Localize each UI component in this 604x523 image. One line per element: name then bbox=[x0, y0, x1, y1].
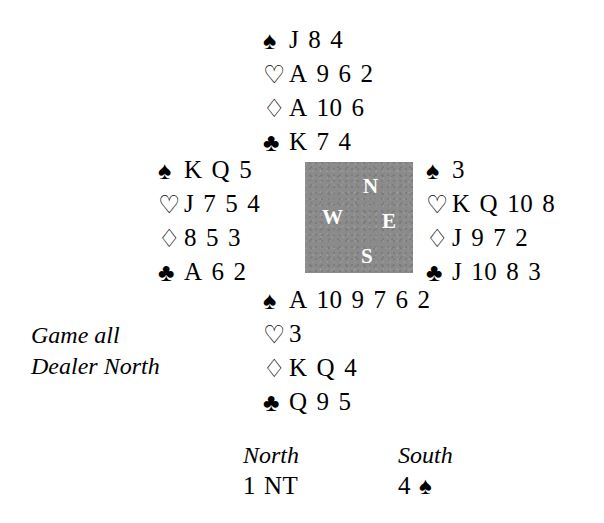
hand-east-diamonds-cards: J972 bbox=[452, 225, 528, 250]
card-rank: 9 bbox=[317, 388, 330, 415]
bridge-hand-diagram: ♠ J84 ♡ A962 ♢ A106 ♣ K74 ♠ KQ5 ♡ J754 ♢… bbox=[0, 0, 604, 523]
hand-west-hearts-row: ♡ J754 bbox=[158, 191, 260, 225]
card-rank: J bbox=[289, 26, 299, 53]
hand-west-diamonds-cards: 853 bbox=[184, 225, 241, 250]
hand-west: ♠ KQ5 ♡ J754 ♢ 853 ♣ A62 bbox=[158, 157, 260, 293]
hand-south-spades-cards: A109762 bbox=[289, 287, 431, 312]
card-rank: 7 bbox=[317, 128, 330, 155]
card-rank: 4 bbox=[247, 190, 260, 217]
hand-north-clubs-row: ♣ K74 bbox=[263, 129, 374, 163]
card-rank: 2 bbox=[361, 60, 374, 87]
card-rank: A bbox=[289, 60, 308, 87]
spade-icon: ♠ bbox=[263, 288, 289, 313]
hand-north-diamonds-cards: A106 bbox=[289, 95, 365, 120]
card-rank: Q bbox=[317, 354, 336, 381]
card-rank: J bbox=[452, 224, 462, 251]
hand-south: ♠ A109762 ♡ 3 ♢ KQ4 ♣ Q95 bbox=[263, 287, 431, 423]
diamond-icon: ♢ bbox=[263, 96, 289, 121]
dealer-label: Dealer North bbox=[31, 351, 160, 382]
card-rank: 4 bbox=[344, 354, 357, 381]
card-rank: A bbox=[289, 94, 308, 121]
auction-bid-south: 4♠ bbox=[398, 470, 453, 502]
hand-north-hearts-row: ♡ A962 bbox=[263, 61, 374, 95]
card-rank: 2 bbox=[234, 258, 247, 285]
club-icon: ♣ bbox=[263, 130, 289, 155]
hand-north-spades-row: ♠ J84 bbox=[263, 27, 374, 61]
card-rank: 2 bbox=[418, 286, 431, 313]
compass-box: N W E S bbox=[305, 162, 413, 273]
auction-column-south: South 4♠ bbox=[398, 440, 453, 502]
card-rank: A bbox=[184, 258, 203, 285]
card-rank: 4 bbox=[330, 26, 343, 53]
card-rank: 3 bbox=[528, 258, 541, 285]
card-rank: 6 bbox=[396, 286, 409, 313]
card-rank: K bbox=[289, 128, 308, 155]
card-rank: 5 bbox=[339, 388, 352, 415]
card-rank: 2 bbox=[515, 224, 528, 251]
card-rank: 6 bbox=[339, 60, 352, 87]
hand-east-hearts-row: ♡ KQ108 bbox=[426, 191, 555, 225]
auction-bid-north: 1NT bbox=[243, 470, 299, 502]
card-rank: 6 bbox=[352, 94, 365, 121]
hand-east-spades-cards: 3 bbox=[452, 157, 465, 182]
heart-icon: ♡ bbox=[426, 192, 452, 217]
hand-east-clubs-row: ♣ J1083 bbox=[426, 259, 555, 293]
hand-north-hearts-cards: A962 bbox=[289, 61, 374, 86]
hand-west-hearts-cards: J754 bbox=[184, 191, 260, 216]
auction-seat-north: North bbox=[243, 440, 299, 470]
diamond-icon: ♢ bbox=[426, 226, 452, 251]
vulnerability-label: Game all bbox=[31, 320, 160, 351]
card-rank: 7 bbox=[203, 190, 216, 217]
spade-icon: ♠ bbox=[158, 158, 184, 183]
card-rank: 10 bbox=[317, 94, 343, 121]
hand-south-spades-row: ♠ A109762 bbox=[263, 287, 431, 321]
auction-bid-north-level: 1 bbox=[243, 472, 256, 499]
card-rank: 9 bbox=[352, 286, 365, 313]
diamond-icon: ♢ bbox=[158, 226, 184, 251]
auction-bid-south-suit-icon: ♠ bbox=[419, 473, 432, 499]
card-rank: 7 bbox=[493, 224, 506, 251]
card-rank: 3 bbox=[289, 320, 302, 347]
hand-north: ♠ J84 ♡ A962 ♢ A106 ♣ K74 bbox=[263, 27, 374, 163]
card-rank: J bbox=[184, 190, 194, 217]
heart-icon: ♡ bbox=[263, 322, 289, 347]
card-rank: 4 bbox=[339, 128, 352, 155]
heart-icon: ♡ bbox=[263, 62, 289, 87]
card-rank: 6 bbox=[212, 258, 225, 285]
compass-west-label: W bbox=[322, 207, 343, 228]
card-rank: 5 bbox=[225, 190, 238, 217]
hand-south-diamonds-row: ♢ KQ4 bbox=[263, 355, 431, 389]
spade-icon: ♠ bbox=[426, 158, 452, 183]
card-rank: K bbox=[184, 156, 203, 183]
card-rank: 5 bbox=[206, 224, 219, 251]
hand-south-hearts-cards: 3 bbox=[289, 321, 302, 346]
hand-east-clubs-cards: J1083 bbox=[452, 259, 541, 284]
card-rank: 3 bbox=[452, 156, 465, 183]
card-rank: 10 bbox=[507, 190, 533, 217]
card-rank: 9 bbox=[317, 60, 330, 87]
heart-icon: ♡ bbox=[158, 192, 184, 217]
card-rank: 7 bbox=[374, 286, 387, 313]
hand-east-hearts-cards: KQ108 bbox=[452, 191, 555, 216]
club-icon: ♣ bbox=[158, 260, 184, 285]
card-rank: A bbox=[289, 286, 308, 313]
card-rank: K bbox=[452, 190, 471, 217]
card-rank: 10 bbox=[471, 258, 497, 285]
compass-east-label: E bbox=[382, 211, 396, 232]
card-rank: 8 bbox=[506, 258, 519, 285]
auction-bid-north-denomination: NT bbox=[264, 472, 298, 499]
hand-east: ♠ 3 ♡ KQ108 ♢ J972 ♣ J1083 bbox=[426, 157, 555, 293]
hand-south-hearts-row: ♡ 3 bbox=[263, 321, 431, 355]
card-rank: Q bbox=[289, 388, 308, 415]
auction-table: North 1NT South 4♠ bbox=[0, 440, 604, 515]
hand-east-spades-row: ♠ 3 bbox=[426, 157, 555, 191]
hand-west-clubs-cards: A62 bbox=[184, 259, 247, 284]
hand-east-diamonds-row: ♢ J972 bbox=[426, 225, 555, 259]
hand-north-diamonds-row: ♢ A106 bbox=[263, 95, 374, 129]
compass-north-label: N bbox=[363, 176, 378, 197]
hand-west-clubs-row: ♣ A62 bbox=[158, 259, 260, 293]
card-rank: K bbox=[289, 354, 308, 381]
hand-north-clubs-cards: K74 bbox=[289, 129, 352, 154]
diamond-icon: ♢ bbox=[263, 356, 289, 381]
club-icon: ♣ bbox=[263, 390, 289, 415]
